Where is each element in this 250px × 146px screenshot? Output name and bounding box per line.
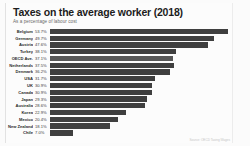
bar-value-label: 36.2% [35, 69, 49, 74]
bar [50, 29, 228, 34]
bar-value-label: 37.1% [35, 56, 49, 61]
source-note: Source: OECD Taxing Wages [189, 138, 230, 142]
page-title: Taxes on the average worker (2018) [13, 7, 183, 18]
bar-track [50, 123, 232, 128]
bar-track [50, 56, 232, 61]
bar-track [50, 42, 232, 47]
bar [50, 117, 118, 122]
bar [50, 56, 173, 61]
bar-category-label: New Zealand [0, 124, 33, 129]
bar-category-label: USA [0, 76, 33, 81]
bar-value-label: 29.3% [35, 97, 49, 102]
bar-row: Canada30.9% [0, 89, 250, 96]
bar-row: New Zealand18.1% [0, 123, 250, 130]
bar-row: Australia28.6% [0, 102, 250, 109]
bar-value-label: 20.4% [35, 117, 49, 122]
bar-row: OECD Ave.37.1% [0, 55, 250, 62]
bar [50, 69, 170, 74]
bar-row: Chile7.0% [0, 129, 250, 136]
bar-category-label: Mexico [0, 117, 33, 122]
bar-value-label: 47.6% [35, 42, 49, 47]
bar-row: Korea22.9% [0, 109, 250, 116]
bar-row: Germany49.7% [0, 35, 250, 42]
bar-track [50, 49, 232, 54]
bar-category-label: Austria [0, 42, 33, 47]
bar-category-label: Netherlands [0, 63, 33, 68]
bar-track [50, 83, 232, 88]
bar-track [50, 110, 232, 115]
bar [50, 96, 147, 101]
bar-track [50, 76, 232, 81]
bar [50, 90, 152, 95]
bar-row: Belgium53.7% [0, 28, 250, 35]
bar-category-label: OECD Ave. [0, 56, 33, 61]
bar-value-label: 53.7% [35, 29, 49, 34]
bar-track [50, 29, 232, 34]
bar-track [50, 90, 232, 95]
chart-figure: Taxes on the average worker (2018) As a … [0, 0, 250, 146]
bar-value-label: 49.7% [35, 36, 49, 41]
bar [50, 103, 145, 108]
bar-category-label: Australia [0, 103, 33, 108]
bar-list: Belgium53.7%Germany49.7%Austria47.6%Turk… [0, 28, 250, 136]
bar-category-label: Denmark [0, 69, 33, 74]
bar-row: Japan29.3% [0, 96, 250, 103]
bar [50, 63, 174, 68]
bar [50, 123, 110, 128]
bar [50, 76, 155, 81]
bar-row: UK30.9% [0, 82, 250, 89]
bar-track [50, 96, 232, 101]
bar-value-label: 7.0% [35, 130, 49, 135]
bar-value-label: 37.5% [35, 63, 49, 68]
bar-category-label: Canada [0, 90, 33, 95]
bar-track [50, 117, 232, 122]
bar-value-label: 30.9% [35, 83, 49, 88]
bar [50, 110, 126, 115]
bar-track [50, 130, 232, 135]
bar-value-label: 38.1% [35, 49, 49, 54]
bar-category-label: Korea [0, 110, 33, 115]
bar [50, 36, 214, 41]
bar-category-label: Japan [0, 97, 33, 102]
bar [50, 49, 176, 54]
bar-category-label: Turkey [0, 49, 33, 54]
bar-track [50, 103, 232, 108]
bar [50, 83, 152, 88]
bar-row: Mexico20.4% [0, 116, 250, 123]
bar-row: Turkey38.1% [0, 48, 250, 55]
bar-row: Netherlands37.5% [0, 62, 250, 69]
bar-value-label: 18.1% [35, 124, 49, 129]
bar-category-label: UK [0, 83, 33, 88]
bar-row: Austria47.6% [0, 42, 250, 49]
bar-track [50, 69, 232, 74]
bar-row: USA31.7% [0, 75, 250, 82]
bar-value-label: 31.7% [35, 76, 49, 81]
bar-category-label: Germany [0, 36, 33, 41]
bar-track [50, 36, 232, 41]
bar-value-label: 22.9% [35, 110, 49, 115]
bar-category-label: Belgium [0, 29, 33, 34]
bar [50, 42, 208, 47]
bar-value-label: 28.6% [35, 103, 49, 108]
bar-value-label: 30.9% [35, 90, 49, 95]
bar [50, 130, 73, 135]
bar-row: Denmark36.2% [0, 69, 250, 76]
chart-subtitle: As a percentage of labour cost [13, 19, 77, 24]
bar-category-label: Chile [0, 130, 33, 135]
bar-track [50, 63, 232, 68]
